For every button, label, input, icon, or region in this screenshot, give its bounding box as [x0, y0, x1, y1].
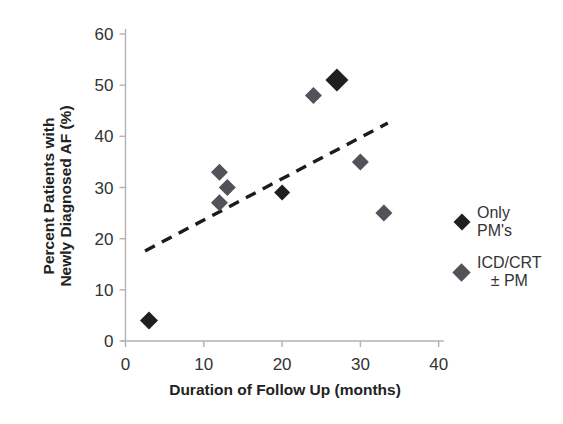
y-tick-label: 50 — [95, 76, 114, 95]
y-axis-title-line1: Percent Patients with — [40, 105, 57, 286]
data-point-only-pms — [140, 312, 158, 330]
legend-label-line: PM's — [477, 222, 512, 240]
y-tick-label: 40 — [95, 127, 114, 146]
data-point-icd-crt-pm — [375, 205, 392, 222]
data-point-icd-crt-pm — [211, 164, 228, 181]
data-point-icd-crt-pm — [352, 153, 369, 170]
legend-label-line: ± PM — [477, 272, 542, 290]
data-point-only-pms — [274, 185, 290, 201]
y-tick-label: 0 — [104, 332, 113, 351]
legend-label-icd-crt-pm: ICD/CRT ± PM — [477, 254, 542, 290]
x-tick-label: 20 — [273, 355, 292, 374]
trend-line — [145, 123, 388, 251]
only-pms-diamond-icon — [454, 214, 471, 231]
y-axis-title-line2: Newly Diagnosed AF (%) — [57, 105, 74, 286]
data-point-only-pms — [325, 69, 348, 92]
data-point-icd-crt-pm — [211, 194, 228, 211]
legend-entry-icd-crt-pm: ICD/CRT ± PM — [452, 254, 542, 290]
icd-crt-diamond-icon — [452, 263, 470, 281]
data-point-icd-crt-pm — [305, 87, 322, 104]
y-tick-label: 30 — [95, 179, 114, 198]
x-tick-label: 0 — [121, 355, 130, 374]
y-axis-title: Percent Patients with Newly Diagnosed AF… — [40, 105, 74, 286]
y-tick-label: 60 — [95, 25, 114, 44]
x-axis-title: Duration of Follow Up (months) — [169, 381, 401, 399]
legend: Only PM's ICD/CRT ± PM — [452, 204, 542, 304]
x-tick-label: 40 — [429, 355, 448, 374]
data-point-icd-crt-pm — [219, 179, 236, 196]
x-tick-label: 10 — [194, 355, 213, 374]
legend-label-line: Only — [477, 204, 512, 222]
legend-entry-only-pms: Only PM's — [452, 204, 542, 240]
legend-label-only-pms: Only PM's — [477, 204, 512, 240]
x-tick-label: 30 — [351, 355, 370, 374]
scatter-chart-figure: 0102030400102030405060 Percent Patients … — [0, 0, 563, 424]
y-tick-label: 20 — [95, 230, 114, 249]
y-tick-label: 10 — [95, 281, 114, 300]
legend-label-line: ICD/CRT — [477, 254, 542, 272]
